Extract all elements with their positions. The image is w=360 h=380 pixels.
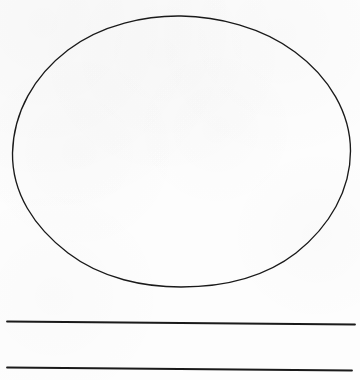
- ink-layer: [0, 0, 360, 380]
- horizontal-rule-upper: [7, 322, 355, 325]
- horizontal-rule-lower: [7, 368, 352, 371]
- ellipse-outline: [12, 16, 350, 287]
- drawing-canvas: [0, 0, 360, 380]
